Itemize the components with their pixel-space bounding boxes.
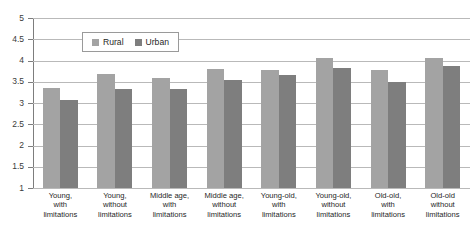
gridline [33, 188, 470, 189]
chart-legend: Rural Urban [82, 32, 179, 52]
y-axis-tick-label: 2.5 [12, 120, 24, 129]
bar-rural [316, 58, 334, 188]
legend-swatch-urban [135, 39, 142, 46]
legend-label-rural: Rural [103, 38, 124, 47]
bar-urban [170, 89, 188, 188]
bar-rural [371, 70, 389, 188]
bar-group [207, 18, 242, 188]
y-axis-tick-label: 3.5 [12, 77, 24, 86]
bar-group [316, 18, 351, 188]
bar-urban [388, 82, 406, 188]
y-axis-tick-label: 1.5 [12, 162, 24, 171]
x-axis-category-label: Young-old, with limitations [252, 191, 307, 219]
x-axis-category-label: Young, without limitations [88, 191, 143, 219]
y-axis-tick-label: 3 [19, 99, 24, 108]
bar-rural [207, 69, 225, 188]
y-axis-tick-label: 4.5 [12, 35, 24, 44]
bar-group [425, 18, 460, 188]
bar-urban [115, 89, 133, 188]
y-axis-tick-label: 1 [19, 184, 24, 193]
bar-group [371, 18, 406, 188]
bar-urban [279, 75, 297, 188]
bar-urban [333, 68, 351, 188]
bar-rural [425, 58, 443, 188]
legend-item-urban: Urban [135, 38, 169, 47]
x-axis-category-label: Middle age, with limitations [142, 191, 197, 219]
x-axis-category-label: Old-old without limitations [415, 191, 470, 219]
grouped-bar-chart: 11.522.533.544.55 Young, with limitation… [0, 0, 476, 237]
bar-group [261, 18, 296, 188]
bar-urban [443, 66, 461, 188]
bar-rural [97, 74, 115, 188]
legend-item-rural: Rural [92, 38, 124, 47]
x-axis-category-label: Young, with limitations [33, 191, 88, 219]
bar-rural [152, 78, 170, 189]
y-axis-tick-label: 4 [19, 56, 24, 65]
bar-rural [43, 88, 61, 188]
legend-label-urban: Urban [146, 38, 169, 47]
x-axis-category-label: Young-old, without limitations [306, 191, 361, 219]
bar-urban [60, 100, 78, 188]
bar-urban [224, 80, 242, 188]
legend-swatch-rural [92, 39, 99, 46]
bar-group [43, 18, 78, 188]
y-axis-tick-label: 5 [19, 14, 24, 23]
x-axis-category-label: Middle age, without limitations [197, 191, 252, 219]
y-axis-tick-label: 2 [19, 141, 24, 150]
bar-rural [261, 70, 279, 188]
x-axis-category-label: Old-old, with limitations [361, 191, 416, 219]
